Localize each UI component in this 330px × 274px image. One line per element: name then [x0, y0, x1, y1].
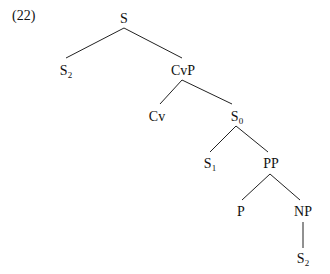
node-label: S	[297, 251, 305, 266]
node-subscript: 2	[305, 258, 310, 268]
node-s2-upper: S2	[60, 64, 72, 78]
node-p: P	[237, 205, 245, 219]
node-label: CvP	[171, 63, 195, 78]
node-label: NP	[294, 204, 312, 219]
node-np: NP	[294, 205, 312, 219]
node-subscript: 2	[68, 70, 73, 80]
node-s-root: S	[120, 12, 128, 26]
node-label: S	[231, 109, 239, 124]
node-pp: PP	[263, 157, 279, 171]
tree-branches	[0, 0, 330, 274]
node-label: S	[60, 63, 68, 78]
node-subscript: 1	[212, 163, 217, 173]
edge-cvp-s0	[182, 80, 232, 104]
node-label: P	[237, 204, 245, 219]
edge-s-s2	[66, 28, 124, 58]
node-s1: S1	[204, 157, 216, 171]
node-s0: S0	[231, 110, 243, 124]
edge-s0-pp	[236, 126, 268, 152]
edge-s0-s1	[210, 126, 236, 152]
edge-s-cvp	[124, 28, 182, 58]
node-cvp: CvP	[171, 64, 195, 78]
node-label: S	[120, 11, 128, 26]
node-label: S	[204, 156, 212, 171]
node-label: Cv	[149, 109, 165, 124]
node-cv: Cv	[149, 110, 165, 124]
node-label: PP	[263, 156, 279, 171]
edge-pp-np	[270, 174, 300, 200]
node-subscript: 0	[239, 116, 244, 126]
edge-pp-p	[242, 174, 270, 200]
node-s2-lower: S2	[297, 252, 309, 266]
edge-cvp-cv	[160, 80, 182, 104]
